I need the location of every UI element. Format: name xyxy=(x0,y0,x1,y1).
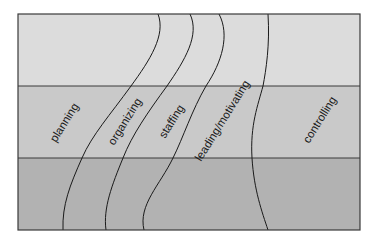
bottom-band xyxy=(18,158,360,230)
management-functions-diagram: planning organizing staffing leading/mot… xyxy=(0,0,381,242)
top-band xyxy=(18,14,360,86)
